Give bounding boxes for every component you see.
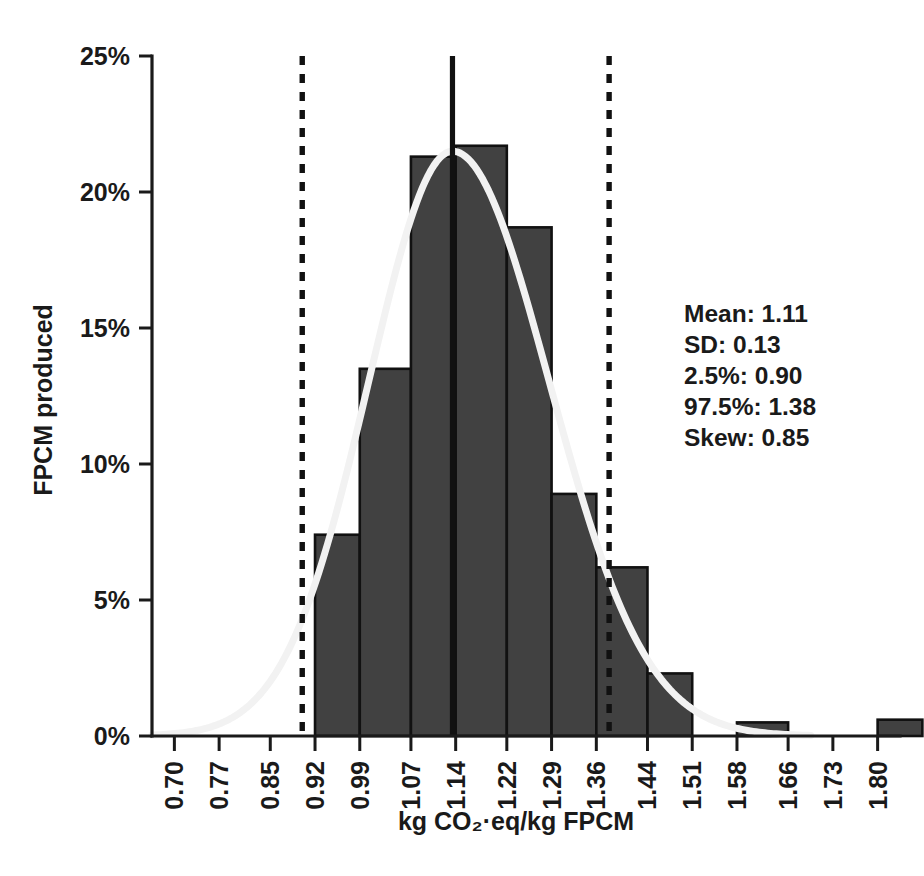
x-tick-label: 1.22 xyxy=(493,761,521,810)
histogram-bar xyxy=(878,720,923,736)
statistic-text: 2.5%: 0.90 xyxy=(684,362,803,389)
histogram-chart: 0%5%10%15%20%25% 0.700.770.850.920.991.0… xyxy=(0,0,924,876)
histogram-bar xyxy=(411,157,456,736)
x-tick-label: 0.92 xyxy=(301,761,329,810)
x-tick-label: 1.80 xyxy=(864,761,892,810)
x-tick-label: 1.66 xyxy=(774,761,802,810)
x-tick-label: 1.29 xyxy=(538,761,566,810)
x-tick-label: 0.77 xyxy=(205,761,233,810)
y-axis-title: FPCM produced xyxy=(29,304,57,496)
x-tick-label: 0.70 xyxy=(160,761,188,810)
x-tick-label: 1.44 xyxy=(633,761,661,810)
x-tick-label: 1.14 xyxy=(442,761,470,810)
statistics-annotation: Mean: 1.11SD: 0.132.5%: 0.9097.5%: 1.38S… xyxy=(684,300,816,451)
y-tick-label: 15% xyxy=(80,314,130,342)
y-tick-label: 0% xyxy=(94,722,130,750)
chart-container: 0%5%10%15%20%25% 0.700.770.850.920.991.0… xyxy=(0,0,924,876)
y-tick-label: 10% xyxy=(80,450,130,478)
y-tick-label: 20% xyxy=(80,178,130,206)
histogram-bar xyxy=(360,369,411,736)
x-tick-label: 1.58 xyxy=(723,761,751,810)
x-tick-label: 1.07 xyxy=(397,761,425,810)
x-tick-label: 1.36 xyxy=(582,761,610,810)
y-tick-label: 5% xyxy=(94,586,130,614)
histogram-bar xyxy=(456,146,507,736)
x-axis-title: kg CO₂·eq/kg FPCM xyxy=(398,807,634,835)
x-tick-label: 0.99 xyxy=(346,761,374,810)
statistic-text: SD: 0.13 xyxy=(684,331,781,358)
statistic-text: Mean: 1.11 xyxy=(684,300,808,327)
statistic-text: Skew: 0.85 xyxy=(684,424,809,451)
x-tick-label: 1.51 xyxy=(678,761,706,810)
statistic-text: 97.5%: 1.38 xyxy=(684,393,816,420)
x-tick-label: 0.85 xyxy=(256,761,284,810)
x-tick-label: 1.73 xyxy=(819,761,847,810)
y-tick-label: 25% xyxy=(80,42,130,70)
